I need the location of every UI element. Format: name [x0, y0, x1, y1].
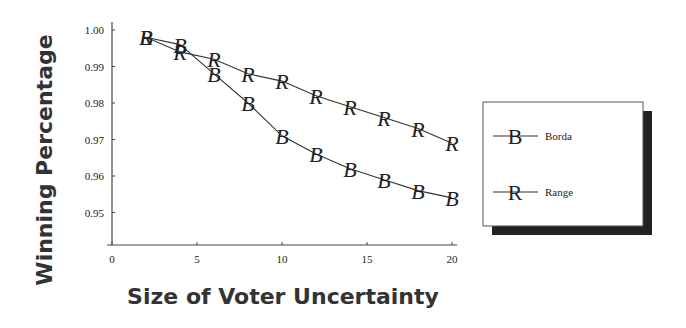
y-tick-label: 0.98 [85, 97, 105, 109]
data-point-marker: R [342, 95, 357, 120]
data-point-marker: R [240, 62, 255, 87]
data-point-marker: R [308, 84, 323, 109]
y-tick-label: 1.00 [85, 24, 105, 36]
legend-marker: R [508, 180, 523, 205]
legend-marker: B [508, 124, 523, 149]
data-point-marker: B [309, 142, 322, 167]
series-line [146, 37, 452, 143]
x-axis-title: Size of Voter Uncertainty [127, 284, 439, 309]
data-point-marker: B [343, 157, 356, 182]
data-point-marker: R [138, 25, 153, 50]
data-point-marker: B [377, 168, 390, 193]
legend-label: Borda [545, 130, 572, 142]
y-tick-label: 0.96 [85, 170, 105, 182]
y-tick-label: 0.97 [85, 134, 105, 146]
y-axis-title: Winning Percentage [32, 34, 57, 285]
x-tick-label: 10 [277, 253, 289, 265]
legend: BBordaRRange [483, 102, 652, 235]
x-tick-label: 5 [194, 253, 200, 265]
legend-box [483, 102, 643, 226]
data-point-marker: B [241, 91, 254, 116]
series-line [146, 37, 452, 198]
data-point-marker: R [376, 106, 391, 131]
data-point-marker: R [444, 131, 459, 156]
data-point-marker: R [172, 40, 187, 65]
data-point-marker: B [275, 124, 288, 149]
y-tick-label: 0.99 [85, 61, 105, 73]
data-point-marker: R [206, 47, 221, 72]
line-chart: 1.000.990.980.970.960.9505101520 BBBBBBB… [0, 0, 686, 328]
x-tick-label: 0 [109, 253, 115, 265]
series-group: BBBBBBBBBBRRRRRRRRRR [138, 25, 459, 211]
x-tick-label: 20 [447, 253, 459, 265]
legend-label: Range [545, 186, 573, 198]
data-point-marker: R [410, 117, 425, 142]
x-tick-label: 15 [362, 253, 374, 265]
series-range: RRRRRRRRRR [138, 25, 459, 156]
y-tick-label: 0.95 [85, 207, 105, 219]
data-point-marker: B [411, 179, 424, 204]
axes: 1.000.990.980.970.960.9505101520 [85, 22, 458, 265]
data-point-marker: B [445, 186, 458, 211]
data-point-marker: R [274, 69, 289, 94]
